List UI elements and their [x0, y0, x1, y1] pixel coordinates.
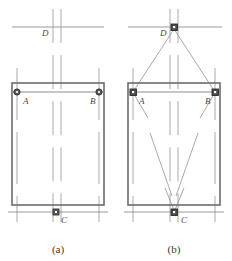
- sight-line-a-to-c: [150, 133, 172, 196]
- subfigure-b: A B C D (b): [124, 9, 224, 256]
- control-point-a-marker-b: [130, 89, 137, 96]
- sight-lines-interior: [134, 94, 214, 196]
- control-point-d-marker-b: [171, 24, 178, 31]
- point-label-d-b: D: [159, 28, 167, 38]
- point-label-c-b: C: [181, 215, 188, 225]
- control-point-a-marker: [14, 89, 20, 95]
- caption-a: (a): [52, 243, 65, 256]
- point-label-a-b: A: [138, 96, 145, 106]
- sight-line-c-right: [175, 188, 184, 210]
- setting-out-diagram-svg: A B C D (a): [0, 0, 232, 261]
- control-point-b-marker: [96, 89, 102, 95]
- point-label-b-b: B: [205, 96, 211, 106]
- point-label-c-a: C: [61, 215, 68, 225]
- caption-b: (b): [168, 243, 181, 256]
- sight-lines-at-c: [165, 188, 184, 210]
- control-point-c-marker: [53, 209, 59, 215]
- control-point-c-marker-b: [171, 209, 178, 216]
- sight-line-b-to-c: [176, 133, 198, 196]
- point-label-d-a: D: [41, 28, 49, 38]
- point-label-a-a: A: [22, 96, 29, 106]
- sight-line-c-left: [165, 188, 174, 210]
- subfigure-a: A B C D (a): [8, 9, 108, 256]
- point-label-b-a: B: [90, 96, 96, 106]
- control-point-b-marker-b: [212, 89, 219, 96]
- figure-root: A B C D (a): [0, 0, 232, 261]
